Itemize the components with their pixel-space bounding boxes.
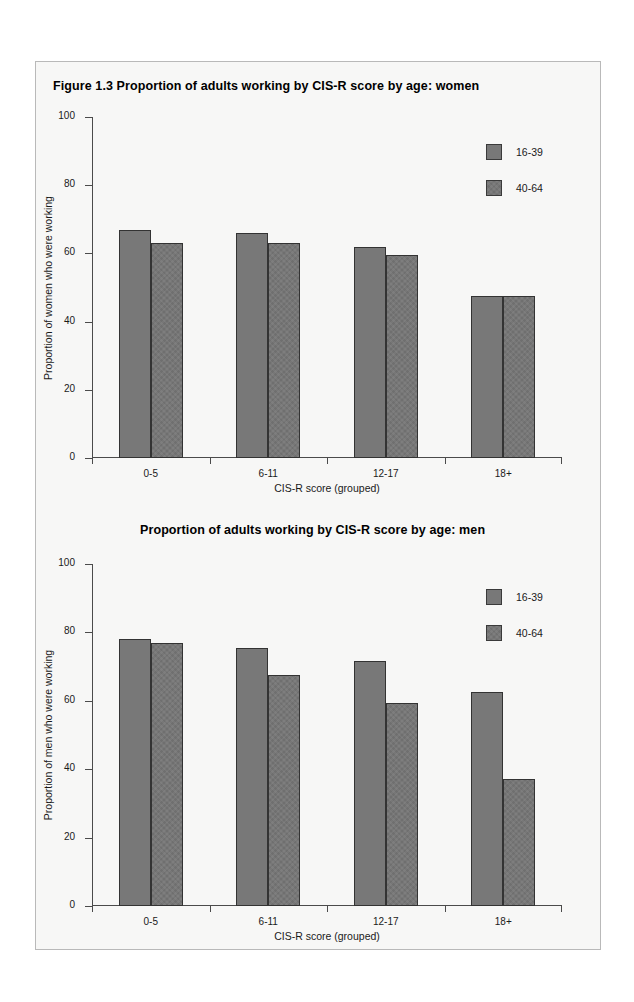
legend-label: 40-64 <box>516 627 543 639</box>
y-tick: 0 <box>85 906 92 907</box>
bar-men-18plus-40-64 <box>503 779 535 906</box>
legend-swatch-icon <box>486 144 502 160</box>
bar-women-6-11-40-64 <box>268 243 300 458</box>
bar-women-12-17-40-64 <box>386 255 418 458</box>
bar-women-12-17-16-39 <box>354 247 386 458</box>
y-tick-label: 0 <box>69 451 75 462</box>
bar-men-0-5-40-64 <box>151 643 183 906</box>
y-tick: 20 <box>85 390 92 391</box>
y-tick-label: 20 <box>64 383 75 394</box>
legend-label: 16-39 <box>516 146 543 158</box>
y-tick-label: 40 <box>64 315 75 326</box>
legend-swatch-icon <box>486 589 502 605</box>
legend-item[interactable]: 16-39 <box>486 589 543 605</box>
y-tick: 80 <box>85 632 92 633</box>
x-tick <box>561 906 562 912</box>
y-tick: 80 <box>85 185 92 186</box>
x-category-label: 6-11 <box>259 916 278 927</box>
x-category-label: 12-17 <box>373 916 399 927</box>
x-category-label: 0-5 <box>144 916 158 927</box>
bar-men-18plus-16-39 <box>471 692 503 906</box>
y-tick: 0 <box>85 458 92 459</box>
x-tick <box>210 458 211 464</box>
y-tick-label: 100 <box>58 557 75 568</box>
bar-men-12-17-16-39 <box>354 661 386 906</box>
legend-item[interactable]: 40-64 <box>486 180 543 196</box>
bar-men-12-17-40-64 <box>386 703 418 906</box>
x-tick <box>445 906 446 912</box>
y-tick: 20 <box>85 838 92 839</box>
y-tick-label: 0 <box>69 899 75 910</box>
bar-women-0-5-40-64 <box>151 243 183 458</box>
legend-women: 16-39 40-64 <box>486 144 543 216</box>
y-axis-women <box>92 117 93 458</box>
y-axis-men <box>92 564 93 906</box>
legend-label: 40-64 <box>516 182 543 194</box>
x-category-label: 12-17 <box>373 468 399 479</box>
x-tick <box>327 458 328 464</box>
x-tick <box>210 906 211 912</box>
y-tick-label: 60 <box>64 694 75 705</box>
x-category-label: 6-11 <box>259 468 278 479</box>
y-tick: 60 <box>85 253 92 254</box>
y-tick: 60 <box>85 701 92 702</box>
y-tick: 40 <box>85 322 92 323</box>
bar-women-6-11-16-39 <box>236 233 268 458</box>
y-tick: 100 <box>85 117 92 118</box>
x-tick <box>445 458 446 464</box>
bar-women-18plus-16-39 <box>471 296 503 458</box>
legend-item[interactable]: 40-64 <box>486 625 543 641</box>
y-tick-label: 20 <box>64 831 75 842</box>
chart-title-men: Proportion of adults working by CIS-R sc… <box>140 523 485 537</box>
y-tick-label: 100 <box>58 110 75 121</box>
x-category-label: 18+ <box>495 468 512 479</box>
legend-swatch-icon <box>486 180 502 196</box>
bar-men-6-11-40-64 <box>268 675 300 906</box>
y-tick-label: 80 <box>64 625 75 636</box>
legend-men: 16-39 40-64 <box>486 589 543 661</box>
legend-label: 16-39 <box>516 591 543 603</box>
figure-panel: Figure 1.3 Proportion of adults working … <box>35 61 601 950</box>
chart-title-women: Figure 1.3 Proportion of adults working … <box>53 79 479 93</box>
chart-women: Figure 1.3 Proportion of adults working … <box>36 62 600 507</box>
y-axis-title-men: Proportion of men who were working <box>42 650 54 820</box>
bar-women-0-5-16-39 <box>119 230 151 458</box>
x-category-label: 18+ <box>495 916 512 927</box>
x-tick <box>92 906 93 912</box>
legend-swatch-icon <box>486 625 502 641</box>
y-tick-label: 80 <box>64 178 75 189</box>
bar-men-6-11-16-39 <box>236 648 268 906</box>
y-tick: 40 <box>85 769 92 770</box>
legend-item[interactable]: 16-39 <box>486 144 543 160</box>
x-tick <box>327 906 328 912</box>
chart-men: Proportion of adults working by CIS-R sc… <box>36 507 600 951</box>
bar-men-0-5-16-39 <box>119 639 151 906</box>
bar-women-18plus-40-64 <box>503 296 535 458</box>
x-tick <box>92 458 93 464</box>
x-tick <box>561 458 562 464</box>
x-category-label: 0-5 <box>144 468 158 479</box>
x-axis-title-women: CIS-R score (grouped) <box>274 482 380 494</box>
y-axis-title-women: Proportion of women who were working <box>42 196 54 380</box>
x-axis-title-men: CIS-R score (grouped) <box>274 930 380 942</box>
y-tick: 100 <box>85 564 92 565</box>
y-tick-label: 60 <box>64 246 75 257</box>
y-tick-label: 40 <box>64 762 75 773</box>
figure-page: Figure 1.3 Proportion of adults working … <box>0 0 634 1002</box>
